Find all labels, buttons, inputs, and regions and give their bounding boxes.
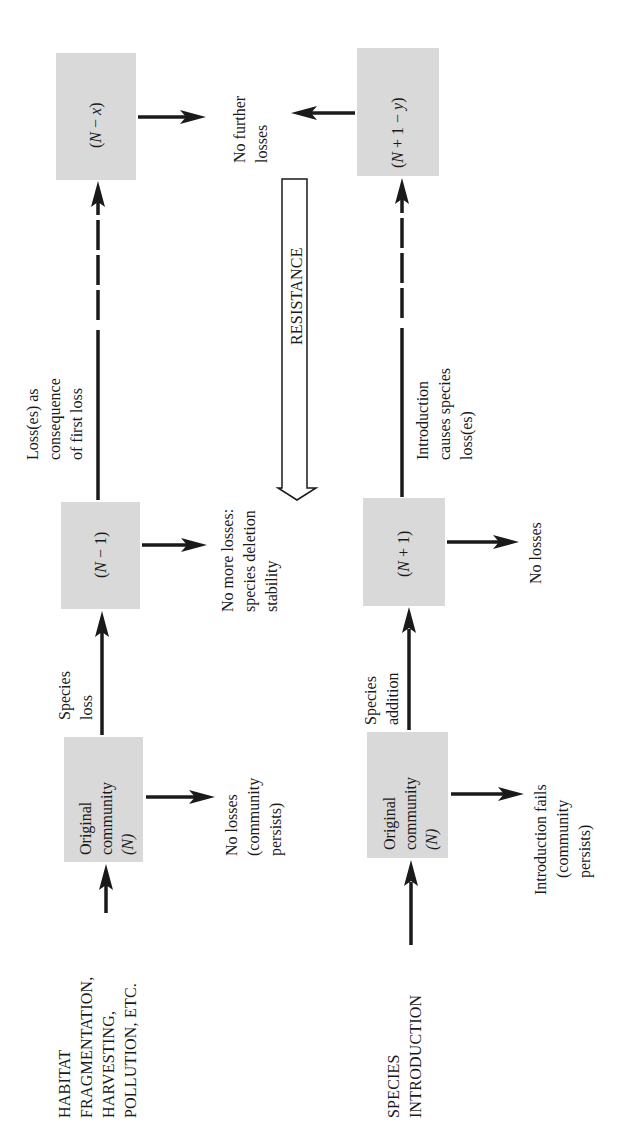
svg-text:addition: addition bbox=[384, 673, 401, 725]
outcome-arrow-orig-bottom bbox=[451, 787, 524, 801]
edge-label-species-loss: Species loss bbox=[56, 671, 95, 720]
svg-text:RESISTANCE: RESISTANCE bbox=[288, 247, 305, 345]
outcome-arrow-n-plus-1-minus-y bbox=[291, 106, 355, 120]
outcome-label-no-further-losses: No further losses bbox=[231, 95, 270, 163]
outcome-arrow-n-minus-1 bbox=[142, 538, 207, 552]
edge-label-introduction-losses: Introduction causes species loss(es) bbox=[414, 368, 476, 460]
driver-arrow-habitat bbox=[99, 864, 113, 913]
svg-text:persists): persists) bbox=[267, 803, 285, 856]
outcome-arrow-n-plus-1 bbox=[447, 535, 519, 549]
svg-text:stability: stability bbox=[263, 560, 281, 612]
svg-text:species deletion: species deletion bbox=[241, 510, 259, 612]
svg-text:FRAGMENTATION,: FRAGMENTATION, bbox=[78, 976, 95, 1118]
node-original-community-bottom: Original community (N) bbox=[367, 732, 448, 858]
svg-text:(N + 1 − y): (N + 1 − y) bbox=[389, 98, 407, 168]
svg-text:Loss(es) as: Loss(es) as bbox=[24, 388, 42, 460]
svg-text:causes species: causes species bbox=[436, 368, 454, 460]
outcome-label-no-losses-top: No losses (community persists) bbox=[223, 778, 285, 856]
svg-text:of first loss: of first loss bbox=[68, 388, 85, 460]
svg-text:(N + 1): (N + 1) bbox=[395, 531, 413, 577]
svg-text:INTRODUCTION: INTRODUCTION bbox=[407, 994, 424, 1118]
svg-text:HABITAT: HABITAT bbox=[56, 1049, 73, 1118]
node-n-plus-1: (N + 1) bbox=[363, 498, 445, 606]
svg-text:persists): persists) bbox=[576, 825, 594, 878]
node-n-plus-1-minus-y: (N + 1 − y) bbox=[357, 48, 439, 176]
edge-species-loss bbox=[95, 611, 109, 735]
outcome-label-deletion-stability: No more losses: species deletion stabili… bbox=[219, 509, 281, 612]
svg-text:(N): (N) bbox=[119, 834, 137, 855]
svg-text:POLLUTION, ETC.: POLLUTION, ETC. bbox=[122, 983, 139, 1118]
node-n-minus-1: (N − 1) bbox=[61, 502, 140, 609]
edge-species-addition bbox=[402, 607, 416, 730]
svg-text:Introduction fails: Introduction fails bbox=[532, 784, 549, 895]
resistance-arrow: RESISTANCE bbox=[278, 179, 316, 500]
driver-arrow-introduction bbox=[404, 860, 418, 945]
driver-label-habitat: HABITAT FRAGMENTATION, HARVESTING, POLLU… bbox=[56, 976, 139, 1118]
svg-text:losses: losses bbox=[253, 125, 270, 163]
svg-text:(N − x): (N − x) bbox=[87, 103, 105, 148]
svg-text:No losses: No losses bbox=[527, 522, 544, 584]
svg-text:Original: Original bbox=[77, 801, 95, 855]
svg-text:(N − 1): (N − 1) bbox=[92, 532, 110, 578]
edge-consequent-losses bbox=[91, 181, 105, 500]
svg-text:(community: (community bbox=[554, 800, 572, 878]
svg-text:No losses: No losses bbox=[223, 794, 240, 856]
node-n-minus-x: (N − x) bbox=[56, 53, 136, 180]
driver-label-introduction: SPECIES INTRODUCTION bbox=[385, 994, 424, 1118]
edge-label-species-addition: Species addition bbox=[362, 673, 401, 725]
edge-label-consequent-losses: Loss(es) as consequence of first loss bbox=[24, 378, 85, 460]
svg-text:consequence: consequence bbox=[46, 378, 64, 460]
outcome-label-no-losses-bottom: No losses bbox=[527, 522, 544, 584]
svg-text:Original: Original bbox=[381, 796, 399, 850]
svg-text:(N): (N) bbox=[423, 829, 441, 850]
svg-text:(community: (community bbox=[245, 778, 263, 856]
svg-text:HARVESTING,: HARVESTING, bbox=[100, 1011, 117, 1118]
svg-text:SPECIES: SPECIES bbox=[385, 1054, 402, 1118]
outcome-label-introduction-fails: Introduction fails (community persists) bbox=[532, 784, 594, 895]
community-change-diagram: HABITAT FRAGMENTATION, HARVESTING, POLLU… bbox=[0, 0, 620, 1143]
svg-text:Introduction: Introduction bbox=[414, 381, 431, 460]
outcome-arrow-n-minus-x bbox=[138, 110, 206, 124]
edge-introduction-losses bbox=[395, 178, 409, 497]
outcome-arrow-orig-top bbox=[146, 790, 215, 804]
svg-text:No further: No further bbox=[231, 95, 248, 163]
svg-text:loss(es): loss(es) bbox=[458, 411, 476, 460]
svg-text:Species: Species bbox=[362, 676, 380, 725]
node-original-community-top: Original community (N) bbox=[64, 737, 143, 862]
svg-text:community: community bbox=[402, 777, 420, 850]
svg-text:community: community bbox=[98, 782, 116, 855]
svg-text:Species: Species bbox=[56, 671, 74, 720]
svg-text:No more losses:: No more losses: bbox=[219, 509, 236, 612]
svg-text:loss: loss bbox=[78, 695, 95, 720]
